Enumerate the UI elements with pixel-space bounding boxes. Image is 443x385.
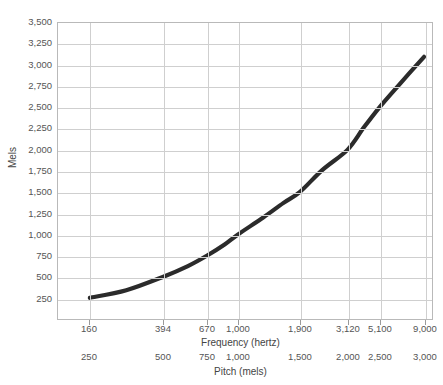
vertical-gridline (239, 23, 240, 319)
horizontal-gridline (58, 193, 432, 194)
y-axis-tick-labels: 3,5003,2503,0002,7502,5002,2502,0001,750… (0, 0, 52, 385)
vertical-gridline (381, 23, 382, 319)
mel-curve-path (90, 57, 424, 298)
x-tick-label-mels: 3,000 (400, 352, 443, 362)
horizontal-gridline (58, 87, 432, 88)
y-axis-tick-label: 3,000 (8, 60, 52, 70)
y-axis-tick-label: 1,250 (8, 209, 52, 219)
x-tick-label-hertz: 9,000 (400, 324, 443, 334)
x-tick-label-hertz: 394 (138, 324, 188, 334)
x-tick-label-hertz: 1,000 (213, 324, 263, 334)
horizontal-gridline (58, 215, 432, 216)
y-axis-tick-label: 2,750 (8, 81, 52, 91)
horizontal-gridline (58, 151, 432, 152)
y-axis-tick-label: 1,500 (8, 187, 52, 197)
vertical-gridline (164, 23, 165, 319)
y-axis-tick-label: 3,500 (8, 17, 52, 27)
vertical-gridline (208, 23, 209, 319)
y-axis-tick-label: 2,000 (8, 145, 52, 155)
y-axis-tick-label: 500 (8, 272, 52, 282)
mel-scale-chart: Mels 3,5003,2503,0002,7502,5002,2502,000… (0, 0, 443, 385)
vertical-gridline (426, 23, 427, 319)
x-tick-label-mels: 2,500 (355, 352, 405, 362)
horizontal-gridline (58, 172, 432, 173)
x-tick-label-hertz: 5,100 (355, 324, 405, 334)
x-tick-label-mels: 1,000 (213, 352, 263, 362)
horizontal-gridline (58, 300, 432, 301)
x-tick-label-mels: 500 (138, 352, 188, 362)
y-axis-tick-label: 1,000 (8, 230, 52, 240)
x-tick-label-mels: 1,500 (275, 352, 325, 362)
y-axis-tick-label: 1,750 (8, 166, 52, 176)
y-axis-tick-label: 750 (8, 251, 52, 261)
horizontal-gridline (58, 129, 432, 130)
horizontal-gridline (58, 236, 432, 237)
y-axis-tick-label: 2,250 (8, 123, 52, 133)
y-axis-tick-label: 3,250 (8, 38, 52, 48)
y-axis-tick-label: 2,500 (8, 102, 52, 112)
horizontal-gridline (58, 108, 432, 109)
plot-area (57, 22, 433, 320)
vertical-gridline (90, 23, 91, 319)
horizontal-gridline (58, 66, 432, 67)
horizontal-gridline (58, 44, 432, 45)
vertical-gridline (349, 23, 350, 319)
horizontal-gridline (58, 257, 432, 258)
x-tick-label-hertz: 160 (64, 324, 114, 334)
x-axis-title-frequency: Frequency (hertz) (0, 337, 443, 348)
y-axis-tick-label: 250 (8, 294, 52, 304)
x-tick-label-hertz: 1,900 (275, 324, 325, 334)
x-tick-label-mels: 250 (64, 352, 114, 362)
horizontal-gridline (58, 278, 432, 279)
mel-curve (58, 23, 432, 319)
vertical-gridline (301, 23, 302, 319)
x-axis-title-pitch: Pitch (mels) (0, 366, 443, 377)
